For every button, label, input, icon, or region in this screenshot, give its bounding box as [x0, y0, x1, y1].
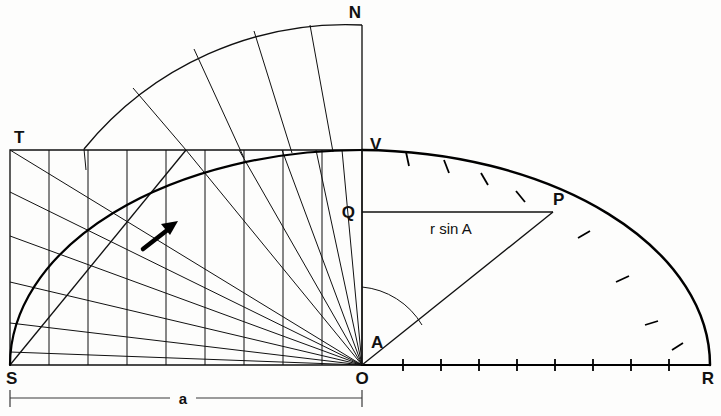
angle-A-arc — [362, 287, 422, 325]
label-S: S — [6, 369, 17, 388]
arc-tick — [444, 160, 449, 173]
label-r-sin-A: r sin A — [430, 220, 472, 237]
label-dimension-a: a — [179, 390, 188, 407]
secondary-diagonals — [10, 150, 186, 365]
label-P: P — [553, 190, 564, 209]
arc-tick — [516, 191, 525, 202]
diagonal-line — [10, 150, 186, 365]
band-spoke — [133, 88, 186, 150]
geometry-figure: N T V Q P S O R A r sin A a — [0, 0, 721, 416]
label-T: T — [14, 128, 25, 147]
radial-line — [316, 150, 362, 365]
label-O: O — [355, 369, 368, 388]
arc-tick — [616, 276, 629, 282]
arc-tick — [481, 173, 488, 185]
arc-tick — [672, 343, 683, 350]
label-V: V — [370, 135, 382, 154]
band-spoke — [84, 149, 86, 170]
radial-line — [10, 192, 362, 365]
band-spoke — [310, 25, 333, 152]
arc-tick — [645, 321, 658, 325]
band-spoke — [254, 31, 292, 153]
radial-fan-lines — [10, 150, 362, 365]
radial-line — [10, 282, 362, 365]
band-spoke — [194, 49, 244, 158]
outer-arc — [84, 25, 362, 149]
outer-arc-band — [84, 25, 362, 170]
label-R: R — [702, 369, 714, 388]
arc-tick — [578, 231, 590, 238]
label-Q: Q — [342, 203, 355, 222]
figure-canvas: N T V Q P S O R A r sin A a — [0, 0, 721, 416]
radial-line — [10, 150, 362, 365]
axes — [362, 150, 710, 365]
arc-right-quadrant — [362, 150, 710, 365]
angle-arc — [362, 287, 422, 325]
label-N: N — [349, 3, 361, 22]
label-angle-A: A — [371, 333, 383, 352]
main-circle-arc — [10, 150, 710, 365]
arc-tick — [406, 152, 409, 166]
radial-line — [342, 150, 362, 365]
radial-line — [239, 150, 362, 365]
